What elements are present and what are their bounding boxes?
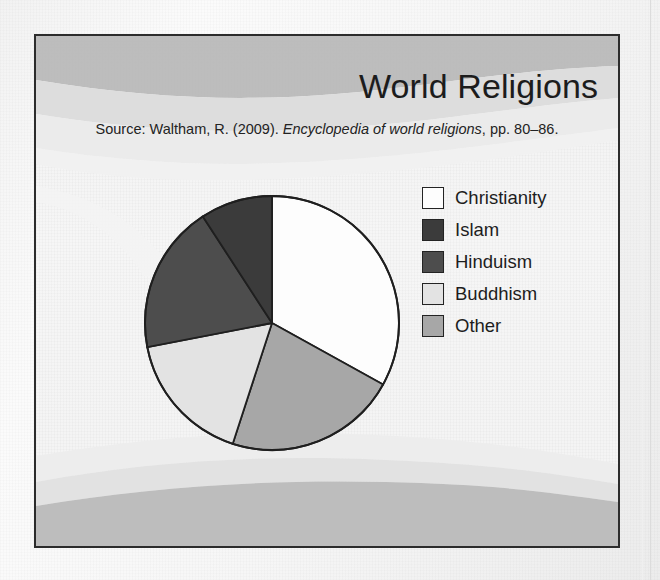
scanned-page: World Religions Source: Waltham, R. (200… [0,0,660,580]
page-edge-rule-faint [642,0,643,580]
source-suffix: , pp. 80–86. [482,121,559,137]
source-title-italic: Encyclopedia of world religions [283,121,482,137]
pie-chart-svg [140,191,404,455]
legend-item-label: Christianity [455,189,547,208]
legend-item-label: Hinduism [455,253,532,272]
legend-item[interactable]: Hinduism [422,246,607,278]
legend-item[interactable]: Islam [422,214,607,246]
legend-item[interactable]: Christianity [422,182,607,214]
legend-item[interactable]: Other [422,310,607,342]
source-prefix: Source: Waltham, R. (2009). [96,121,279,137]
legend-swatch-other [422,315,444,337]
source-citation: Source: Waltham, R. (2009).Encyclopedia … [36,121,618,137]
legend-swatch-christianity [422,187,444,209]
legend-swatch-islam [422,219,444,241]
page-title: World Religions [359,67,598,106]
legend-item[interactable]: Buddhism [422,278,607,310]
page-edge-rule [650,0,651,580]
chart-legend: ChristianityIslamHinduismBuddhismOther [422,182,607,342]
figure-frame: World Religions Source: Waltham, R. (200… [34,34,620,548]
legend-item-label: Islam [455,221,499,240]
legend-item-label: Buddhism [455,285,537,304]
legend-swatch-hinduism [422,251,444,273]
pie-chart [140,191,404,455]
legend-swatch-buddhism [422,283,444,305]
legend-item-label: Other [455,317,501,336]
pie-slice-group [145,196,399,450]
